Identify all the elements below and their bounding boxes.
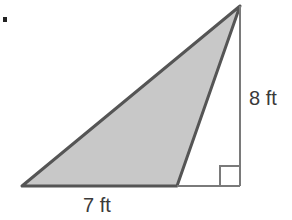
right-angle-marker — [220, 166, 240, 186]
base-label: 7 ft — [83, 194, 111, 216]
height-label: 8 ft — [249, 87, 277, 109]
bullet-marker — [3, 17, 7, 22]
triangle-diagram: 8 ft 7 ft — [0, 0, 292, 220]
shaded-triangle — [22, 6, 240, 186]
